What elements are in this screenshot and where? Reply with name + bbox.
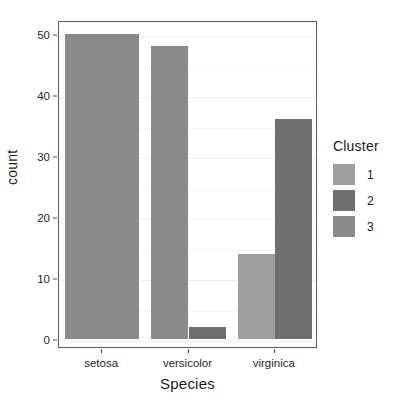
legend: Cluster 123 [333, 138, 399, 241]
bar-versicolor-cluster-2 [189, 327, 226, 339]
x-tick-label-virginica: virginica [253, 357, 295, 369]
legend-item-3[interactable]: 3 [333, 215, 399, 238]
legend-swatch-3 [333, 216, 355, 237]
plot-panel [58, 21, 317, 348]
legend-label-3: 3 [367, 220, 374, 234]
x-tick-label-setosa: setosa [84, 357, 118, 369]
y-tick-label: 50 [16, 29, 50, 41]
x-axis-title: Species [0, 375, 375, 392]
y-tick-mark [53, 279, 57, 280]
legend-label-1: 1 [367, 168, 374, 182]
y-tick-label: 0 [16, 334, 50, 346]
y-tick-label: 40 [16, 90, 50, 102]
bar-setosa-cluster-3 [65, 34, 139, 339]
legend-item-1[interactable]: 1 [333, 163, 399, 186]
y-tick-label: 20 [16, 212, 50, 224]
gridline-major [59, 341, 316, 342]
bar-versicolor-cluster-3 [151, 46, 188, 339]
legend-title: Cluster [333, 138, 399, 154]
y-tick-label: 10 [16, 273, 50, 285]
x-tick-mark [101, 349, 102, 353]
y-tick-mark [53, 340, 57, 341]
legend-swatch-2 [333, 190, 355, 211]
y-tick-mark [53, 96, 57, 97]
legend-label-2: 2 [367, 194, 374, 208]
x-tick-mark [188, 349, 189, 353]
bar-chart: 01020304050 count setosaversicolorvirgin… [0, 0, 401, 410]
y-tick-mark [53, 218, 57, 219]
y-tick-mark [53, 157, 57, 158]
legend-item-2[interactable]: 2 [333, 189, 399, 212]
legend-swatch-1 [333, 164, 355, 185]
x-tick-mark [274, 349, 275, 353]
legend-items: 123 [333, 163, 399, 238]
y-axis-title: count [4, 150, 20, 185]
x-tick-label-versicolor: versicolor [163, 357, 212, 369]
bar-virginica-cluster-1 [238, 254, 275, 339]
y-tick-label: 30 [16, 151, 50, 163]
bar-virginica-cluster-2 [275, 119, 312, 339]
y-tick-mark [53, 35, 57, 36]
